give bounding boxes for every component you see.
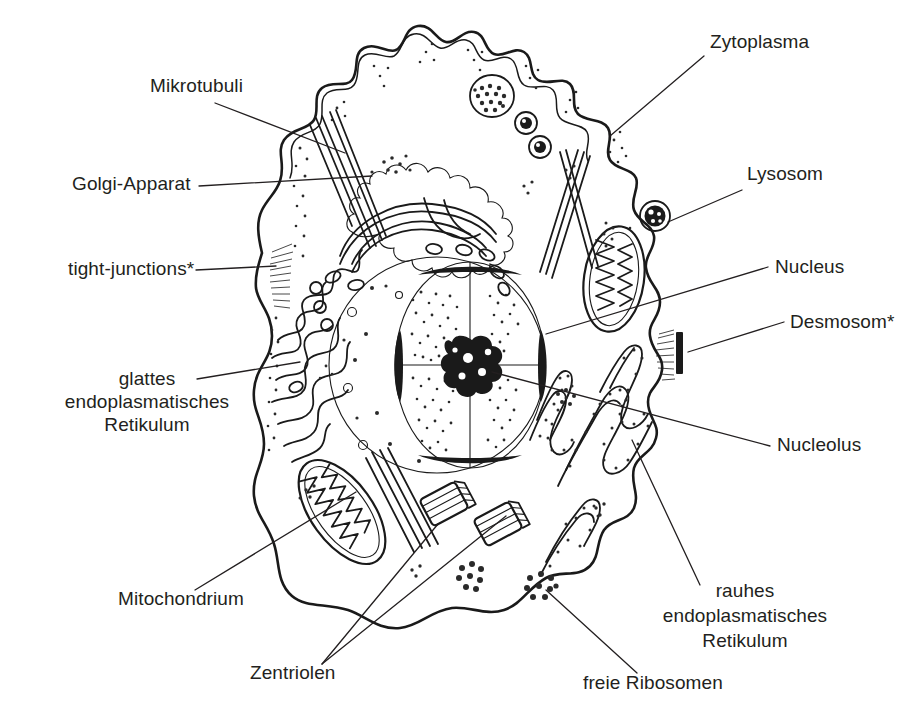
label-golgi-apparat: Golgi-Apparat <box>72 173 191 194</box>
label-desmosom: Desmosom* <box>790 311 895 332</box>
label-glattes-er-line3: Retikulum <box>104 414 189 435</box>
label-tight-junctions: tight-junctions* <box>68 258 195 279</box>
leader-rer <box>632 440 700 585</box>
label-glattes-er-line1: glattes <box>119 368 176 389</box>
label-nucleus: Nucleus <box>775 256 844 277</box>
cell-diagram-page: Mikrotubuli Golgi-Apparat tight-junction… <box>0 0 921 725</box>
leader-lysosom <box>668 190 742 222</box>
label-mikrotubuli: Mikrotubuli <box>150 75 243 96</box>
label-lysosom: Lysosom <box>747 163 823 184</box>
label-glattes-er-line2: endoplasmatisches <box>65 391 229 412</box>
label-rauhes-er-line2: endoplasmatisches <box>663 605 827 626</box>
label-freie-ribosomen: freie Ribosomen <box>583 672 723 693</box>
label-rauhes-er-line1: rauhes <box>716 580 775 601</box>
label-rauhes-er-line3: Retikulum <box>702 630 787 651</box>
label-mitochondrium: Mitochondrium <box>118 588 244 609</box>
label-nucleolus: Nucleolus <box>777 434 861 455</box>
leader-desmosom <box>688 322 784 352</box>
leader-zytoplasma <box>610 56 704 136</box>
label-zentriolen: Zentriolen <box>250 662 336 683</box>
label-zytoplasma: Zytoplasma <box>710 31 810 52</box>
cell-diagram-figure: Mikrotubuli Golgi-Apparat tight-junction… <box>0 0 921 725</box>
leader-ribosomen <box>546 590 637 673</box>
